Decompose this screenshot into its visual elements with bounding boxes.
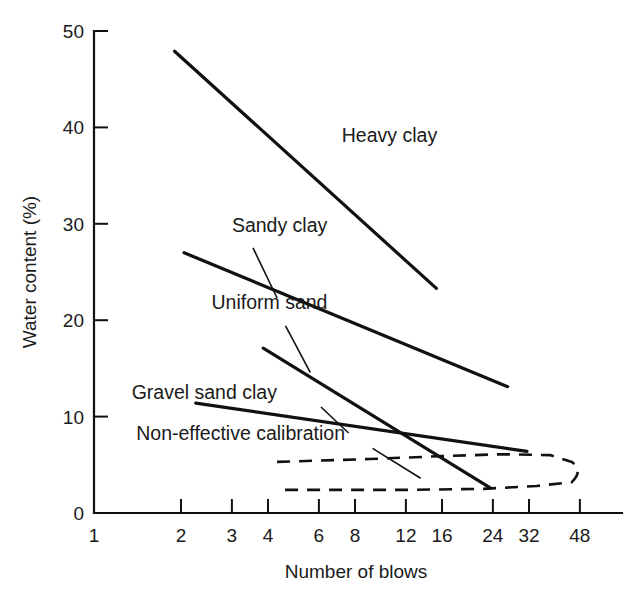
series-label-sandy-clay: Sandy clay [232, 214, 328, 236]
x-axis-title: Number of blows [285, 561, 428, 582]
x-tick-label: 4 [263, 525, 274, 546]
x-tick-label: 3 [227, 525, 238, 546]
x-tick-label: 16 [431, 525, 452, 546]
y-tick-label: 50 [63, 21, 84, 42]
y-axis-ticks: 01020304050 [63, 21, 108, 524]
x-tick-label: 24 [482, 525, 504, 546]
series-label-non-effective-calibration: Non-effective calibration [136, 422, 345, 444]
series-dashed-non-effective-calibration [277, 454, 578, 490]
x-tick-label: 32 [518, 525, 539, 546]
series-line-heavy-clay [175, 51, 437, 288]
y-tick-label: 20 [63, 310, 84, 331]
x-tick-label: 6 [314, 525, 325, 546]
x-tick-label: 1 [89, 525, 100, 546]
x-tick-label: 2 [176, 525, 187, 546]
x-tick-label: 12 [395, 525, 416, 546]
y-tick-label: 10 [63, 407, 84, 428]
chart-container: 01020304050 1234681216243248 Water conte… [0, 0, 642, 609]
x-tick-label: 48 [569, 525, 590, 546]
y-axis-title: Water content (%) [19, 196, 40, 348]
series-label-gravel-sand-clay: Gravel sand clay [132, 381, 277, 403]
series-line-sandy-clay [184, 253, 508, 387]
chart-series-labels: Heavy claySandy clayUniform sandGravel s… [132, 124, 438, 478]
y-tick-label: 40 [63, 117, 84, 138]
y-tick-label: 30 [63, 214, 84, 235]
leader-line [373, 448, 421, 478]
x-tick-label: 8 [350, 525, 361, 546]
x-axis-ticks: 1234681216243248 [89, 499, 591, 546]
series-label-heavy-clay: Heavy clay [342, 124, 438, 146]
water-content-vs-blows-chart: 01020304050 1234681216243248 Water conte… [0, 0, 642, 609]
y-tick-label: 0 [73, 503, 84, 524]
series-label-uniform-sand: Uniform sand [211, 291, 327, 313]
